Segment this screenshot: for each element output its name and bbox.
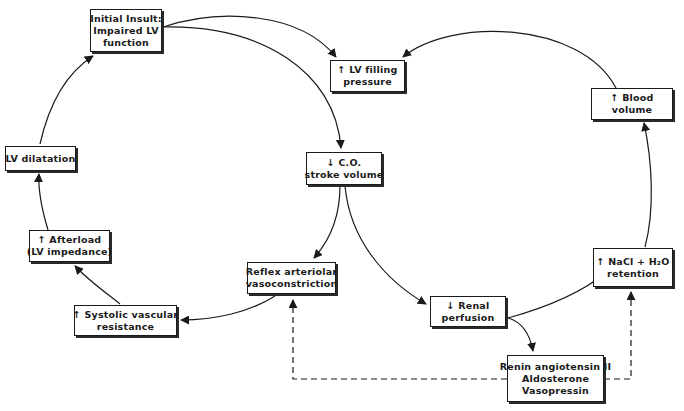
node-lv-dilatation: LV dilatation [5,146,76,171]
node-text: Impaired LV [93,25,158,37]
node-initial-insult: Initial Insult: Impaired LV function [90,9,162,52]
node-renin-aldosterone-vasopressin: Renin angiotensin II Aldosterone Vasopre… [507,355,604,402]
node-blood-volume: ↑ Blood volume [591,88,673,120]
node-text: Aldosterone [522,373,589,385]
node-afterload: ↑ Afterload (LV impedance) [29,230,110,262]
node-renal-perfusion: ↓ Renal perfusion [430,296,506,327]
arrow-dilatation-to-insult [40,56,93,144]
node-text: ↑ Systolic vascular [73,309,178,321]
node-text: ↑ NaCl + H₂O [596,256,669,268]
arrow-afterload-to-dilatation [39,174,48,230]
node-reflex-vasoconstriction: Reflex arteriolar vasoconstriction [247,262,336,294]
arrow-co-to-renal [345,186,426,304]
node-text: LV dilatation [6,153,76,165]
node-text: Initial Insult: [90,13,162,25]
node-text: volume [612,104,652,116]
node-text: retention [607,268,659,280]
arrow-renal-to-renin [508,318,533,351]
node-text: Renin angiotensin II [500,361,611,373]
heart-failure-cycle-diagram: Initial Insult: Impaired LV function ↑ L… [0,0,684,411]
arrow-reflex-to-systolic [181,296,275,320]
node-text: ↑ Afterload [38,234,102,246]
node-co-stroke-volume: ↓ C.O. stroke volume [306,152,382,185]
arrow-co-to-reflex [314,186,340,258]
node-text: (LV impedance) [27,246,112,258]
node-nacl-retention: ↑ NaCl + H₂O retention [593,248,673,287]
node-text: pressure [343,76,392,88]
arrow-blood-to-filling [403,31,616,88]
node-text: Vasopressin [522,385,589,397]
node-text: stroke volume [305,169,384,181]
node-lv-filling-pressure: ↑ LV filling pressure [330,60,405,92]
node-text: ↓ C.O. [327,157,362,169]
arrow-systolic-to-afterload [75,266,120,304]
node-text: perfusion [442,312,495,324]
arrow-insult-to-co [163,27,341,148]
node-text: ↑ LV filling [338,64,398,76]
node-text: ↑ Blood [610,92,653,104]
node-text: Reflex arteriolar [246,266,337,278]
node-text: resistance [97,321,154,333]
arrow-insult-to-filling [163,16,336,57]
node-systolic-resistance: ↑ Systolic vascular resistance [74,305,177,336]
arrow-nacl-to-blood [644,123,651,247]
node-text: vasoconstriction [246,278,338,290]
node-text: ↓ Renal [447,300,490,312]
node-text: function [103,37,149,49]
